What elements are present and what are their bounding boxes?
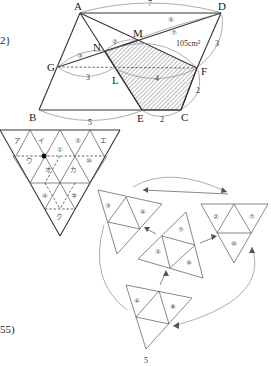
piece-b-8: ⑧ bbox=[170, 303, 176, 311]
area-label: 105cm² bbox=[176, 39, 201, 48]
side-text-bottom: 55) bbox=[0, 323, 15, 336]
vertex-dot bbox=[42, 154, 47, 159]
measure-be: 5 bbox=[88, 118, 92, 127]
point-b: B bbox=[29, 111, 36, 123]
cell-ku: ク bbox=[56, 213, 63, 221]
figure-parallelogram: A D M N G L F B E C 7 ⑤ ② ③ ⑦ 105cm² 3 3… bbox=[29, 0, 226, 127]
point-f: F bbox=[201, 65, 207, 77]
point-e: E bbox=[137, 112, 144, 124]
point-c: C bbox=[181, 111, 188, 123]
cell-1: ① bbox=[57, 146, 63, 154]
side-text-top: 2} bbox=[0, 34, 11, 46]
cell-4: ④ bbox=[42, 192, 48, 200]
piece-c-9: ⑨ bbox=[186, 259, 192, 267]
cell-2: ② bbox=[75, 137, 81, 145]
point-d: D bbox=[218, 0, 226, 12]
figure-triangle-net: ア イ ① ② エ ウ オ カ ⑩ ④ キ ク bbox=[0, 130, 120, 236]
ratio-gn: ③ bbox=[77, 52, 83, 60]
cell-ki: キ bbox=[71, 192, 78, 200]
point-m: M bbox=[133, 27, 143, 39]
cell-10: ⑩ bbox=[86, 157, 92, 165]
point-l: L bbox=[112, 74, 119, 86]
ratio-nf: ⑦ bbox=[171, 29, 177, 37]
piece-ul-3: ③ bbox=[105, 202, 111, 210]
piece-c-5: ⑤ bbox=[155, 248, 161, 256]
measure-ad: 7 bbox=[148, 0, 152, 8]
measure-gl: 3 bbox=[86, 73, 90, 82]
ratio-md: ⑤ bbox=[168, 16, 174, 24]
ratio-nm: ② bbox=[112, 38, 118, 46]
cell-u: ウ bbox=[26, 157, 33, 165]
point-a: A bbox=[74, 0, 82, 12]
measure-df: 3 bbox=[215, 39, 219, 48]
piece-r-7: ⑦ bbox=[249, 213, 255, 221]
measure-fc: 2 bbox=[196, 86, 200, 95]
piece-ul-6: ⑥ bbox=[140, 208, 146, 216]
geometry-figures: A D M N G L F B E C 7 ⑤ ② ③ ⑦ 105cm² 3 3… bbox=[0, 0, 271, 366]
cell-ka: カ bbox=[70, 166, 77, 174]
piece-c-7: ⑦ bbox=[178, 226, 184, 234]
figure-fold-cycle: ③ ⑥ ⑦ ⑤ ⑨ ② ⑦ ⑩ ④ ⑧ 5 bbox=[98, 177, 268, 365]
cell-a: ア bbox=[14, 137, 21, 145]
point-n: N bbox=[93, 41, 101, 53]
piece-b-4: ④ bbox=[134, 297, 140, 305]
shaded-region bbox=[105, 40, 197, 110]
measure-ec: 2 bbox=[160, 115, 164, 124]
footer-number: 5 bbox=[144, 356, 148, 365]
measure-lf: 4 bbox=[155, 74, 159, 83]
point-g: G bbox=[47, 61, 55, 73]
piece-r-2: ② bbox=[213, 213, 219, 221]
cell-e: エ bbox=[100, 137, 107, 145]
piece-r-10: ⑩ bbox=[231, 240, 237, 248]
cell-i: イ bbox=[38, 137, 45, 145]
cell-o: オ bbox=[45, 166, 52, 174]
